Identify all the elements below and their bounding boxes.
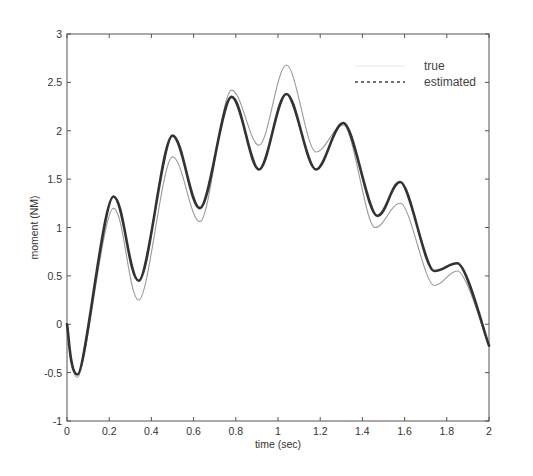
legend: true estimated <box>355 59 476 89</box>
series-estimated <box>67 94 489 375</box>
x-axis-ticks: 00.20.40.60.811.21.41.61.82 <box>64 34 492 437</box>
x-tick-label: 0.8 <box>228 425 243 437</box>
legend-label-true: true <box>424 59 445 73</box>
x-tick-label: 1.8 <box>439 425 454 437</box>
x-tick-label: 0 <box>64 425 70 437</box>
y-tick-label: 3 <box>56 28 62 40</box>
plot-area <box>67 34 489 421</box>
line-chart: 00.20.40.60.811.21.41.61.82 -1-0.500.511… <box>0 0 533 476</box>
y-tick-label: 0 <box>56 318 62 330</box>
y-tick-label: 2.5 <box>47 76 62 88</box>
y-tick-label: 2 <box>56 125 62 137</box>
x-tick-label: 0.2 <box>102 425 117 437</box>
y-tick-label: 1 <box>56 222 62 234</box>
x-tick-label: 0.4 <box>144 425 159 437</box>
y-tick-label: 1.5 <box>47 173 62 185</box>
x-tick-label: 1.4 <box>355 425 370 437</box>
x-tick-label: 1.6 <box>397 425 412 437</box>
series-lines <box>67 65 489 378</box>
x-tick-label: 1.2 <box>313 425 328 437</box>
y-axis-label: moment (NM) <box>28 195 40 259</box>
x-tick-label: 1 <box>275 425 281 437</box>
y-axis-ticks: -1-0.500.511.522.53 <box>44 28 489 427</box>
x-tick-label: 0.6 <box>186 425 201 437</box>
y-tick-label: -1 <box>53 415 62 427</box>
legend-label-estimated: estimated <box>424 75 476 89</box>
y-tick-label: -0.5 <box>44 367 62 379</box>
x-axis-label: time (sec) <box>255 438 301 450</box>
x-tick-label: 2 <box>486 425 492 437</box>
y-tick-label: 0.5 <box>47 270 62 282</box>
